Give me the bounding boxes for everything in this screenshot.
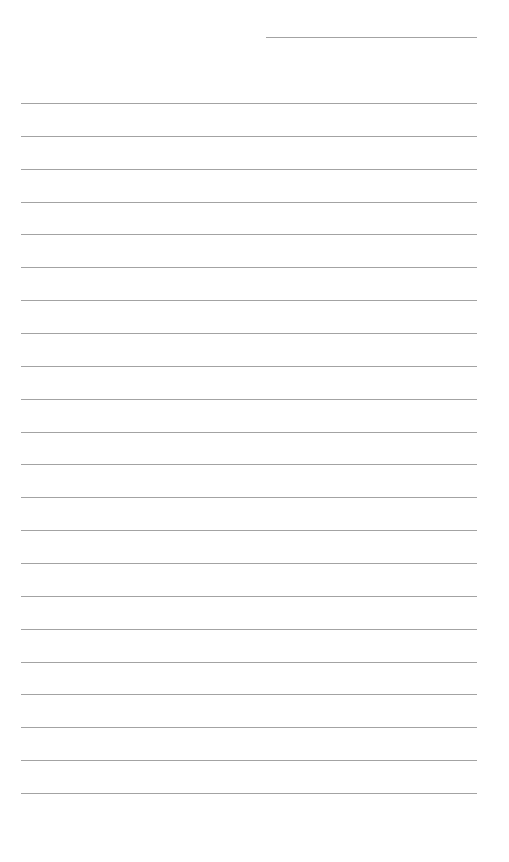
writing-line: [21, 563, 477, 564]
writing-line: [21, 103, 477, 104]
writing-line: [21, 169, 477, 170]
writing-line: [21, 760, 477, 761]
writing-line: [21, 464, 477, 465]
writing-line: [21, 136, 477, 137]
writing-line: [21, 300, 477, 301]
writing-line: [21, 530, 477, 531]
writing-line: [21, 629, 477, 630]
lined-paper-page: [0, 0, 509, 862]
writing-line: [21, 234, 477, 235]
writing-line: [21, 497, 477, 498]
name-date-line: [266, 37, 477, 38]
writing-line: [21, 399, 477, 400]
writing-line: [21, 596, 477, 597]
writing-line: [21, 662, 477, 663]
writing-line: [21, 267, 477, 268]
writing-line: [21, 333, 477, 334]
writing-line: [21, 793, 477, 794]
writing-line: [21, 694, 477, 695]
writing-line: [21, 727, 477, 728]
writing-line: [21, 202, 477, 203]
writing-line: [21, 432, 477, 433]
writing-line: [21, 366, 477, 367]
